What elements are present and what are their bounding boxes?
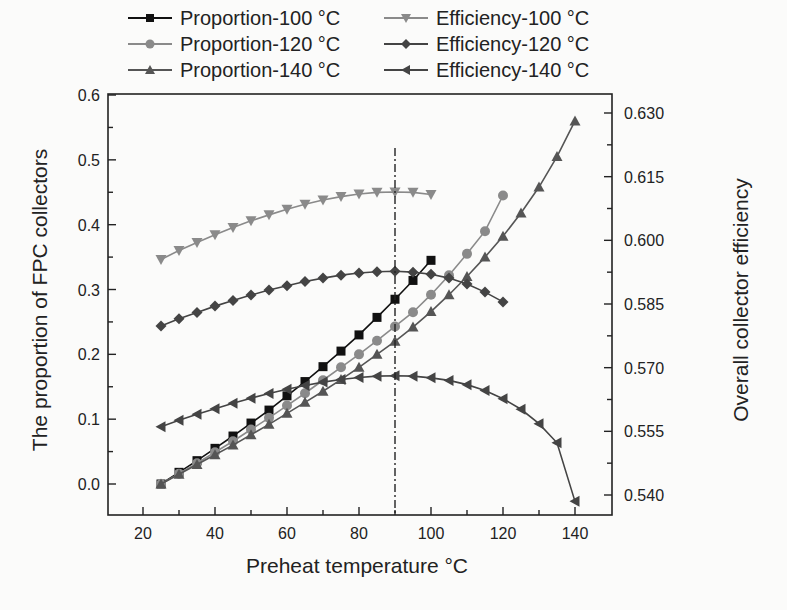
legend-item: Efficiency-120 °C (384, 33, 589, 55)
legend-item: Efficiency-140 °C (384, 59, 589, 81)
y2-tick-label: 0.615 (624, 169, 664, 186)
plot-frame (108, 94, 612, 515)
series-proportion-140-c (156, 115, 581, 488)
legend-item: Proportion-140 °C (128, 59, 340, 81)
y2-tick-label: 0.540 (624, 487, 664, 504)
y2-axis-label: Overall collector efficiency (729, 178, 752, 422)
legend-label: Proportion-100 °C (180, 7, 340, 29)
y-axis-label: The proportion of FPC collectors (28, 149, 51, 451)
legend-item: Proportion-120 °C (128, 33, 340, 55)
x-axis-label: Preheat temperature °C (246, 554, 468, 577)
y-tick-label: 0.6 (78, 87, 100, 104)
series-layer (156, 115, 581, 506)
y-tick-label: 0.2 (78, 346, 100, 363)
x-tick-label: 100 (418, 525, 445, 542)
legend-label: Proportion-120 °C (180, 33, 340, 55)
y2-tick-label: 0.570 (624, 360, 664, 377)
x-axis-ticks: 20406080100120140 (134, 507, 588, 542)
y-tick-label: 0.5 (78, 152, 100, 169)
legend-label: Efficiency-140 °C (436, 59, 589, 81)
x-tick-label: 80 (350, 525, 368, 542)
series-efficiency-120-c (156, 266, 509, 332)
axes: 20406080100120140 0.00.10.20.30.40.50.6 … (78, 87, 664, 542)
y2-tick-label: 0.630 (624, 105, 664, 122)
x-tick-label: 140 (562, 525, 589, 542)
y2-tick-label: 0.585 (624, 296, 664, 313)
legend-label: Efficiency-120 °C (436, 33, 589, 55)
y2-tick-label: 0.600 (624, 232, 664, 249)
y-tick-label: 0.0 (78, 476, 100, 493)
legend: Proportion-100 °CProportion-120 °CPropor… (128, 7, 589, 81)
series-proportion-120-c (156, 191, 508, 489)
y-tick-label: 0.1 (78, 411, 100, 428)
legend-item: Proportion-100 °C (128, 7, 340, 29)
series-proportion-100-c (157, 256, 436, 489)
x-tick-label: 40 (206, 525, 224, 542)
x-tick-label: 60 (278, 525, 296, 542)
y-axis-ticks: 0.00.10.20.30.40.50.6 (78, 87, 116, 493)
x-tick-label: 120 (490, 525, 517, 542)
series-efficiency-140-c (156, 370, 580, 507)
y-tick-label: 0.3 (78, 282, 100, 299)
x-tick-label: 20 (134, 525, 152, 542)
y2-axis-ticks: 0.5400.5550.5700.5850.6000.6150.630 (604, 105, 664, 504)
chart: Proportion-100 °CProportion-120 °CPropor… (0, 0, 787, 610)
legend-item: Efficiency-100 °C (384, 7, 589, 29)
legend-label: Efficiency-100 °C (436, 7, 589, 29)
y-tick-label: 0.4 (78, 217, 100, 234)
legend-label: Proportion-140 °C (180, 59, 340, 81)
y2-tick-label: 0.555 (624, 423, 664, 440)
